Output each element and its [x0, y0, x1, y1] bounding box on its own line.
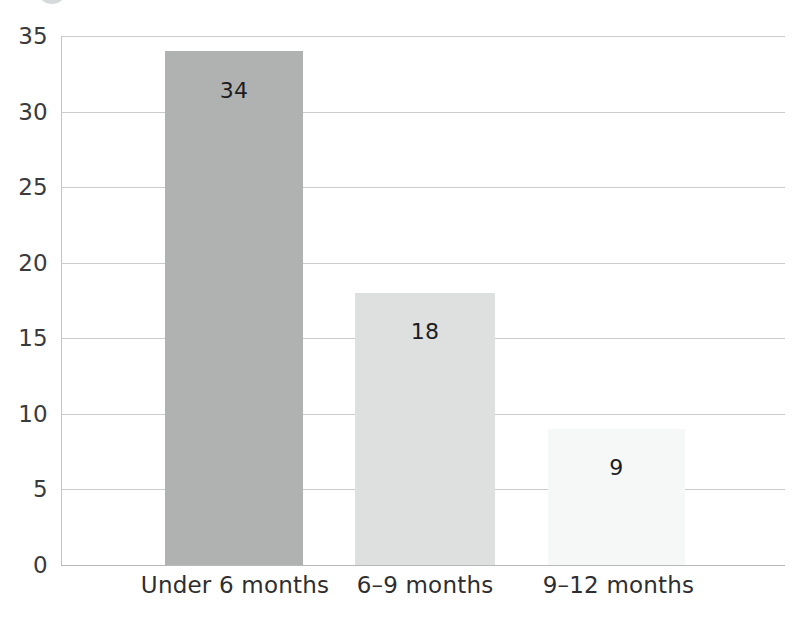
bar-9-12-months[interactable]: 9 — [548, 429, 685, 565]
gridline-0-baseline — [61, 565, 785, 566]
y-tick-label-15: 15 — [18, 325, 48, 351]
bar-value-label-3: 9 — [548, 455, 685, 480]
x-tick-label-6-9-months: 6–9 months — [335, 572, 515, 598]
y-tick-label-35: 35 — [18, 23, 48, 49]
y-tick-label-25: 25 — [18, 174, 48, 200]
bar-under-6-months[interactable]: 34 — [165, 51, 303, 565]
plot-area: 34 18 9 — [61, 36, 785, 565]
y-tick-label-30: 30 — [18, 99, 48, 125]
bar-value-label-2: 18 — [355, 319, 495, 344]
gridline-35 — [61, 36, 785, 37]
bar-6-9-months[interactable]: 18 — [355, 293, 495, 565]
x-tick-label-9-12-months: 9–12 months — [526, 572, 711, 598]
y-tick-label-5: 5 — [33, 476, 48, 502]
y-tick-label-10: 10 — [18, 401, 48, 427]
y-tick-label-20: 20 — [18, 250, 48, 276]
y-axis-labels: 35 30 25 20 15 10 5 0 — [0, 0, 48, 618]
bar-chart-figure: 35 30 25 20 15 10 5 0 34 18 9 Under 6 — [0, 0, 806, 618]
bar-value-label-1: 34 — [165, 78, 303, 103]
y-tick-label-0: 0 — [33, 552, 48, 578]
x-tick-label-under-6-months: Under 6 months — [125, 572, 345, 598]
